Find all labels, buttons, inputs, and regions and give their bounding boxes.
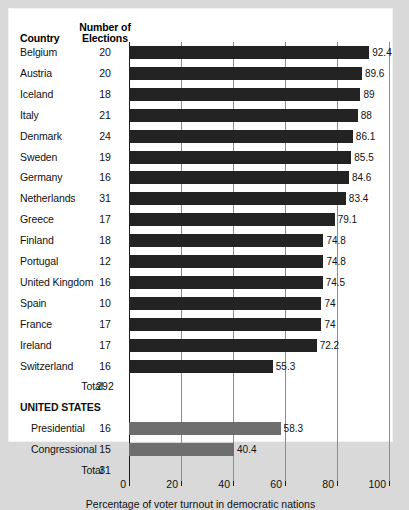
axis-tick: [129, 481, 130, 486]
chart-row: UNITED STATES: [9, 397, 392, 418]
chart-row: United Kingdom1674.5: [9, 272, 392, 293]
bar: [129, 171, 349, 184]
chart-row: Portugal1274.8: [9, 251, 392, 272]
bar: [129, 109, 358, 122]
chart-area: Country Number of Elections Belgium2092.…: [9, 9, 392, 441]
bar: [129, 318, 321, 331]
row-label: UNITED STATES: [9, 397, 125, 418]
chart-row: Netherlands3183.4: [9, 188, 392, 209]
bar: [129, 422, 281, 435]
bar: [129, 88, 360, 101]
row-elections-count: 292: [71, 376, 139, 397]
chart-row: Greece1779.1: [9, 209, 392, 230]
bar-value-label: 85.5: [354, 147, 373, 168]
bar-value-label: 86.1: [356, 126, 375, 147]
chart-row: Finland1874.8: [9, 230, 392, 251]
chart-row: Austria2089.6: [9, 63, 392, 84]
bar: [129, 130, 353, 143]
bar-value-label: 89: [363, 84, 374, 105]
axis-tick: [285, 481, 286, 486]
chart-row: Spain1074: [9, 293, 392, 314]
bar-value-label: 40.4: [237, 439, 256, 460]
bar: [129, 443, 234, 456]
bar-value-label: 74.8: [326, 230, 345, 251]
chart-row: Total292: [9, 376, 392, 397]
axis-tick-label: 60: [252, 478, 282, 490]
chart-row: Presidential1658.3: [9, 418, 392, 439]
chart-row: Italy2188: [9, 105, 392, 126]
bar: [129, 339, 317, 352]
bar: [129, 234, 323, 247]
chart-row: Germany1684.6: [9, 167, 392, 188]
x-axis-title: Percentage of voter turnout in democrati…: [9, 498, 392, 510]
column-header-elections: Number of Elections: [71, 22, 139, 44]
bar-value-label: 55.3: [276, 356, 295, 377]
chart-row: France1774: [9, 314, 392, 335]
axis-tick: [233, 481, 234, 486]
axis-tick-label: 100: [356, 478, 386, 490]
bar-value-label: 74.8: [326, 251, 345, 272]
bar: [129, 297, 321, 310]
bar-value-label: 84.6: [352, 167, 371, 188]
bar: [129, 255, 323, 268]
bar-value-label: 74: [324, 314, 335, 335]
axis-tick: [389, 481, 390, 486]
bar: [129, 213, 335, 226]
bar: [129, 46, 369, 59]
chart-row: Ireland1772.2: [9, 335, 392, 356]
chart-row: Denmark2486.1: [9, 126, 392, 147]
chart-row: Switzerland1655.3: [9, 356, 392, 377]
bar-value-label: 83.4: [349, 188, 368, 209]
axis-tick: [337, 481, 338, 486]
bar-value-label: 88: [361, 105, 372, 126]
chart-row: Belgium2092.4: [9, 42, 392, 63]
bar-value-label: 89.6: [365, 63, 384, 84]
axis-tick: [181, 481, 182, 486]
bar: [129, 151, 351, 164]
chart-card: Country Number of Elections Belgium2092.…: [9, 9, 392, 441]
axis-tick-label: 40: [200, 478, 230, 490]
axis-tick-label: 20: [148, 478, 178, 490]
chart-row: Sweden1985.5: [9, 147, 392, 168]
bar-value-label: 72.2: [320, 335, 339, 356]
chart-row: Iceland1889: [9, 84, 392, 105]
bar: [129, 276, 323, 289]
axis-tick-label: 0: [96, 478, 126, 490]
bar: [129, 360, 273, 373]
bar-value-label: 79.1: [338, 209, 357, 230]
chart-row: Congressional1540.4: [9, 439, 392, 460]
bar: [129, 67, 362, 80]
bar-value-label: 74.5: [326, 272, 345, 293]
bar-value-label: 58.3: [284, 418, 303, 439]
axis-tick-label: 80: [304, 478, 334, 490]
bar-value-label: 92.4: [372, 42, 391, 63]
bar: [129, 192, 346, 205]
bar-value-label: 74: [324, 293, 335, 314]
